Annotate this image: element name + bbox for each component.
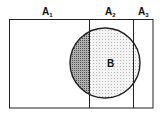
label-a2: A2 bbox=[105, 6, 116, 18]
label-b: B bbox=[107, 58, 114, 69]
partition-diagram: A1 A2 A3 B bbox=[0, 0, 160, 113]
label-a1: A1 bbox=[42, 6, 53, 18]
event-b-region bbox=[70, 28, 140, 98]
label-a3: A3 bbox=[138, 6, 149, 18]
